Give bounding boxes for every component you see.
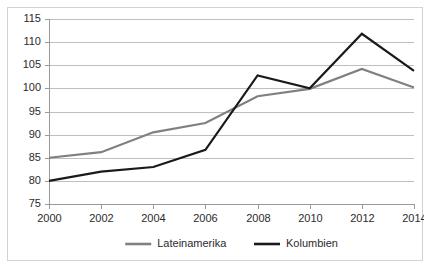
chart-container: 7580859095100105110115200020022004200620… — [7, 7, 423, 261]
y-axis-tick-label: 105 — [23, 58, 41, 70]
y-axis-tick-label: 75 — [29, 197, 41, 209]
x-axis-tick-label: 2002 — [89, 212, 113, 224]
y-axis-tick-label: 100 — [23, 81, 41, 93]
x-axis-tick-label: 2008 — [246, 212, 270, 224]
y-axis-tick-label: 115 — [23, 12, 41, 24]
x-axis-tick-label: 2006 — [193, 212, 217, 224]
y-axis-tick-label: 95 — [29, 105, 41, 117]
line-chart: 7580859095100105110115200020022004200620… — [8, 8, 424, 262]
x-axis-tick-label: 2010 — [298, 212, 322, 224]
legend: LateinamerikaKolumbien — [125, 237, 338, 249]
x-axis-tick-label: 2000 — [37, 212, 61, 224]
legend-label: Kolumbien — [286, 237, 338, 249]
legend-label: Lateinamerika — [157, 237, 227, 249]
y-axis-tick-label: 110 — [23, 35, 41, 47]
x-axis-tick-label: 2004 — [141, 212, 165, 224]
x-axis-tick-label: 2012 — [350, 212, 374, 224]
x-axis-tick-label: 2014 — [402, 212, 424, 224]
y-axis-tick-label: 90 — [29, 128, 41, 140]
y-axis-tick-label: 80 — [29, 174, 41, 186]
y-axis-tick-label: 85 — [29, 151, 41, 163]
plot-area: 7580859095100105110115200020022004200620… — [8, 8, 424, 262]
x-axis-ticks: 20002002200420062008201020122014 — [37, 204, 424, 224]
